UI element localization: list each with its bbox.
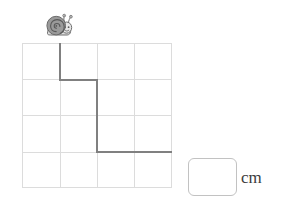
snail-trail-path	[60, 43, 172, 152]
answer-input-box[interactable]	[188, 158, 237, 196]
snail-trail-polyline	[60, 43, 172, 152]
unit-label: cm	[241, 168, 262, 187]
exercise-canvas: cm	[0, 0, 284, 208]
